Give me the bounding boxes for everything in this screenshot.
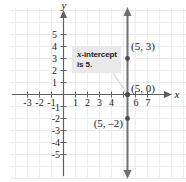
label-5-0: (5, 0) [131, 82, 155, 95]
line-top-arrow-icon [124, 7, 132, 16]
y-tick-label-1: 1 [52, 77, 57, 88]
point-5-neg2 [125, 116, 130, 121]
grid-lines [10, 8, 186, 179]
y-tick-label-neg5: -5 [52, 149, 60, 160]
y-tick-label-3: 3 [52, 53, 57, 64]
x-tick-label-4: 4 [109, 97, 114, 108]
y-tick-label-neg3: -3 [52, 125, 60, 136]
y-tick-label-4: 4 [52, 41, 57, 52]
label-5-neg2: (5, –2) [94, 117, 124, 130]
point-5-3 [125, 56, 130, 61]
x-intercept-callout: x-intercept is 5. [72, 46, 121, 73]
x-axis-arrow-icon [164, 91, 172, 98]
y-tick-label-2: 2 [52, 65, 57, 76]
callout-line-1-rest: -intercept [81, 50, 116, 59]
x-tick-label-neg3: -3 [23, 97, 31, 108]
y-tick-label-neg2: -2 [52, 113, 60, 124]
x-tick-label-3: 3 [97, 97, 102, 108]
x-tick-label-2: 2 [85, 97, 90, 108]
y-axis-label: y [61, 0, 67, 11]
y-tick-label-neg4: -4 [52, 137, 60, 148]
line-bottom-arrow-icon [124, 170, 132, 179]
label-5-3: (5, 3) [131, 40, 155, 53]
graph-canvas: x y -3 -2 -1 1 2 3 4 6 7 5 4 3 2 1 -1 -2… [0, 0, 186, 182]
x-tick-label-neg2: -2 [35, 97, 43, 108]
y-tick-label-neg1: -1 [52, 102, 60, 113]
x-tick-label-6: 6 [134, 97, 139, 108]
x-axis-label: x [174, 88, 180, 100]
coordinate-plane-figure: x y -3 -2 -1 1 2 3 4 6 7 5 4 3 2 1 -1 -2… [0, 0, 186, 182]
callout-line-1: x-intercept [77, 49, 117, 60]
x-tick-label-1: 1 [73, 97, 78, 108]
y-tick-label-5: 5 [52, 29, 57, 40]
callout-line-2: is 5. [77, 60, 117, 70]
point-5-0 [125, 92, 130, 97]
y-axis-arrow-icon [60, 10, 67, 18]
x-tick-label-7: 7 [146, 97, 151, 108]
